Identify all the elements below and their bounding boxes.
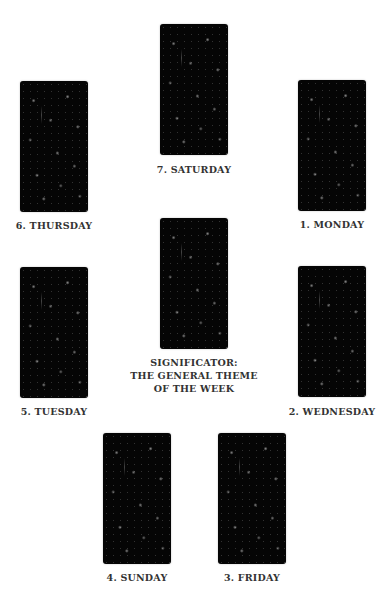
label-thursday: 6. THURSDAY [0,219,114,232]
label-sunday: 4. SUNDAY [77,571,197,584]
label-wednesday: 2. WEDNESDAY [272,405,387,418]
label-friday: 3. FRIDAY [192,571,312,584]
significator-line-2: THE GENERAL THEME [124,369,264,382]
card-significator [160,218,228,349]
card-wednesday [298,266,366,397]
card-thursday [20,81,88,212]
card-saturday [160,24,228,155]
card-tuesday [20,267,88,398]
significator-line-1: SIGNIFICATOR: [124,356,264,369]
card-monday [298,80,366,211]
label-monday: 1. MONDAY [272,218,387,231]
card-friday [218,433,286,564]
label-tuesday: 5. TUESDAY [0,405,114,418]
label-saturday: 7. SATURDAY [134,163,254,176]
card-sunday [103,433,171,564]
significator-line-3: OF THE WEEK [124,382,264,395]
